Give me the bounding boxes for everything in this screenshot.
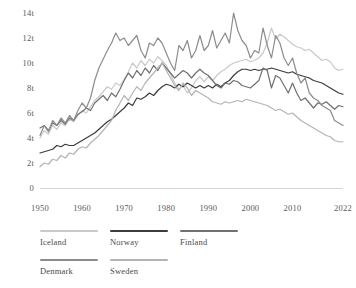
x-tick-2022: 2022 — [326, 203, 356, 213]
x-axis-baseline — [40, 188, 343, 189]
x-tick-2000: 2000 — [233, 203, 267, 213]
legend-label-denmark: Denmark — [40, 266, 110, 276]
series-line-iceland — [40, 28, 343, 138]
legend-swatch-denmark — [40, 259, 98, 261]
chart-legend: IcelandNorwayFinlandDenmarkSweden — [40, 230, 340, 288]
legend-swatch-norway — [110, 230, 168, 232]
legend-label-norway: Norway — [110, 237, 180, 247]
x-tick-1970: 1970 — [107, 203, 141, 213]
series-line-norway — [40, 68, 343, 153]
legend-label-sweden: Sweden — [110, 266, 180, 276]
x-tick-1950: 1950 — [23, 203, 57, 213]
legend-item-norway[interactable]: Norway — [110, 230, 180, 247]
x-tick-1990: 1990 — [191, 203, 225, 213]
legend-label-finland: Finland — [180, 237, 250, 247]
x-tick-2010: 2010 — [276, 203, 310, 213]
series-line-finland — [40, 63, 343, 131]
legend-swatch-sweden — [110, 259, 168, 261]
x-tick-1960: 1960 — [65, 203, 99, 213]
legend-item-iceland[interactable]: Iceland — [40, 230, 110, 247]
legend-swatch-finland — [180, 230, 238, 232]
line-chart-plot — [0, 0, 351, 230]
legend-row: DenmarkSweden — [40, 259, 340, 276]
legend-label-iceland: Iceland — [40, 237, 110, 247]
legend-item-denmark[interactable]: Denmark — [40, 259, 110, 276]
legend-swatch-iceland — [40, 230, 98, 232]
legend-item-sweden[interactable]: Sweden — [110, 259, 180, 276]
legend-row: IcelandNorwayFinland — [40, 230, 340, 247]
legend-item-finland[interactable]: Finland — [180, 230, 250, 247]
x-tick-1980: 1980 — [149, 203, 183, 213]
